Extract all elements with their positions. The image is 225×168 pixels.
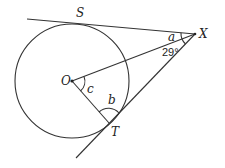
center-point xyxy=(70,79,73,82)
geometry-diagram: S X O T a 29° b c xyxy=(0,0,225,168)
angle-arc-a xyxy=(181,33,182,39)
angle-arc-29 xyxy=(182,39,186,44)
label-angle-b: b xyxy=(108,93,116,107)
label-s: S xyxy=(76,6,84,20)
label-o: O xyxy=(61,74,71,88)
angle-arc-c xyxy=(81,77,85,92)
angle-arc-b xyxy=(99,108,119,113)
label-t: T xyxy=(111,125,120,139)
point-x xyxy=(194,33,197,36)
label-angle-c: c xyxy=(87,82,94,96)
label-angle-29: 29° xyxy=(162,46,179,58)
label-angle-a: a xyxy=(168,30,175,44)
label-x: X xyxy=(198,27,208,41)
